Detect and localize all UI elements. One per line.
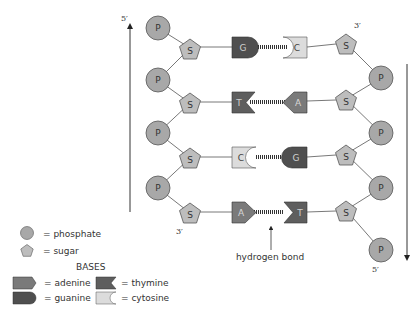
svg-text:A: A [238,208,245,218]
svg-text:P: P [378,128,384,138]
left-phosphates: P P P P [146,16,170,200]
svg-text:P: P [155,128,161,138]
sugar-icon: S [180,148,201,168]
left-bottom-label: 3′ [176,227,183,236]
adenine-icon: A [232,202,256,223]
svg-text:S: S [343,152,349,162]
svg-text:P: P [378,73,384,83]
sugar-icon: S [180,203,201,223]
svg-text:= phosphate: = phosphate [43,229,101,239]
hydrogen-bonds [250,45,288,214]
guanine-icon: G [232,37,258,58]
cytosine-icon: C [232,147,256,168]
svg-text:S: S [187,210,193,220]
svg-text:P: P [378,245,384,255]
bases-heading: BASES [76,262,106,272]
hydrogen-bond-label: hydrogen bond [236,252,304,262]
phosphate-icon [21,227,34,240]
legend: = phosphate = sugar BASES = adenine = th… [13,227,170,305]
svg-text:C: C [294,43,300,53]
svg-text:P: P [155,23,161,33]
phosphate-icon: P [146,16,170,40]
guanine-icon [13,292,36,304]
phosphate-icon: P [146,68,170,92]
svg-text:P: P [155,75,161,85]
svg-text:G: G [240,43,247,53]
svg-text:= guanine: = guanine [44,293,91,303]
svg-text:S: S [187,46,193,56]
sugar-base-links [200,44,336,212]
legend-cytosine: = cytosine [96,292,170,304]
phosphate-icon: P [146,121,170,145]
svg-text:T: T [296,208,303,218]
adenine-icon: A [283,92,307,113]
svg-text:= sugar: = sugar [43,246,79,256]
svg-text:P: P [155,183,161,193]
sugar-icon: S [336,201,357,221]
sugar-icon: S [336,34,357,54]
legend-guanine: = guanine [13,292,91,304]
right-bottom-label: 5′ [372,265,379,274]
legend-adenine: = adenine [13,277,91,289]
phosphate-icon: P [369,66,393,90]
guanine-icon: G [282,147,308,168]
left-sugars: S S S S [180,39,201,223]
svg-text:= adenine: = adenine [44,278,91,288]
legend-phosphate: = phosphate [21,227,102,240]
cytosine-icon [96,292,116,304]
adenine-icon [13,277,36,289]
sugar-icon: S [180,39,201,59]
svg-text:S: S [343,41,349,51]
legend-sugar: = sugar [21,245,79,257]
sugar-icon: S [180,93,201,113]
phosphate-icon: P [369,176,393,200]
sugar-icon: S [336,145,357,165]
left-top-label: 5′ [121,14,128,23]
phosphate-icon: P [369,238,393,262]
svg-text:S: S [187,100,193,110]
svg-text:= cytosine: = cytosine [121,293,170,303]
dna-diagram: 5′ 3′ 3′ 5′ P [0,0,414,314]
right-phosphates: P P P P [369,66,393,262]
svg-text:C: C [238,153,244,163]
svg-text:P: P [378,183,384,193]
thymine-icon: T [284,202,307,223]
right-top-label: 3′ [354,21,361,30]
thymine-icon [96,277,116,289]
svg-text:A: A [295,98,302,108]
right-sugars: S S S S [336,34,357,221]
svg-text:S: S [343,208,349,218]
sugar-icon [21,245,33,257]
svg-text:T: T [235,98,242,108]
svg-text:= thymine: = thymine [121,278,169,288]
phosphate-icon: P [369,121,393,145]
sugar-icon: S [336,90,357,110]
svg-text:G: G [293,153,300,163]
svg-text:S: S [187,155,193,165]
svg-text:S: S [343,97,349,107]
phosphate-icon: P [146,176,170,200]
legend-thymine: = thymine [96,277,169,289]
